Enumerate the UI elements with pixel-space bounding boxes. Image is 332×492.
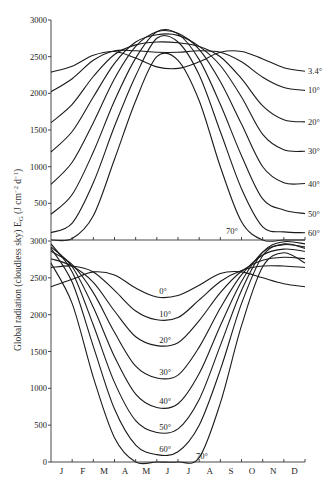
latitude-curve-30 — [51, 34, 305, 152]
chart-canvas: 300025002000150010005003.4°10°20°30°40°5… — [0, 0, 332, 492]
month-label: J — [60, 466, 64, 476]
latitude-label: 40° — [308, 179, 320, 189]
latitude-curve-20 — [51, 42, 305, 123]
month-label: J — [187, 466, 191, 476]
month-label: F — [80, 466, 85, 476]
month-label: A — [207, 466, 214, 476]
y-tick-label: 1000 — [30, 162, 47, 172]
latitude-label: 30° — [308, 146, 320, 156]
y-tick-label: 2500 — [30, 273, 47, 283]
bottom-panel-southern-hemisphere: 3000250020001500100050000°10°20°30°40°50… — [30, 236, 305, 467]
month-label: J — [166, 466, 170, 476]
latitude-curve-40 — [51, 245, 305, 409]
month-label: M — [142, 466, 150, 476]
month-label: O — [249, 466, 256, 476]
latitude-label: 60° — [159, 444, 171, 454]
latitude-curve-60 — [51, 244, 305, 456]
month-label: M — [100, 466, 108, 476]
latitude-label: 3.4° — [308, 66, 322, 76]
y-tick-label: 1500 — [30, 125, 47, 135]
month-label: N — [270, 466, 277, 476]
month-label: S — [228, 466, 233, 476]
latitude-label: 50° — [308, 209, 320, 219]
x-axis-months: JFMAMJJASOND — [60, 466, 298, 476]
y-tick-label: 500 — [34, 198, 47, 208]
latitude-label: 10° — [308, 85, 320, 95]
y-tick-label: 2500 — [30, 52, 47, 62]
latitude-curve-0 — [51, 271, 305, 297]
latitude-curve-70 — [51, 253, 305, 464]
top-panel-northern-hemisphere: 300025002000150010005003.4°10°20°30°40°5… — [30, 15, 322, 241]
latitude-label: 50° — [159, 422, 171, 432]
y-tick-label: 500 — [34, 420, 47, 430]
latitude-label: 20° — [159, 335, 171, 345]
y-tick-label: 1500 — [30, 347, 47, 357]
y-tick-label: 2000 — [30, 310, 47, 320]
latitude-label: 10° — [159, 309, 171, 319]
latitude-curve-10 — [51, 50, 305, 92]
latitude-label: 70° — [196, 451, 208, 461]
latitude-label: 60° — [308, 228, 320, 238]
latitude-curve-3.4 — [51, 51, 305, 72]
month-label: A — [122, 466, 129, 476]
y-tick-label: 3000 — [30, 236, 47, 246]
latitude-label: 20° — [308, 117, 320, 127]
latitude-label: 0° — [159, 286, 167, 296]
y-tick-label: 1000 — [30, 383, 47, 393]
latitude-label: 40° — [159, 396, 171, 406]
month-label: D — [291, 466, 298, 476]
y-tick-label: 3000 — [30, 15, 47, 25]
latitude-label: 70° — [226, 226, 238, 236]
y-tick-label: 0 — [43, 457, 47, 467]
y-axis-label: Global radiation (cloudless sky) EG (J c… — [12, 169, 25, 351]
latitude-label: 30° — [159, 367, 171, 377]
global-radiation-chart: 300025002000150010005003.4°10°20°30°40°5… — [0, 0, 332, 492]
y-tick-label: 2000 — [30, 88, 47, 98]
